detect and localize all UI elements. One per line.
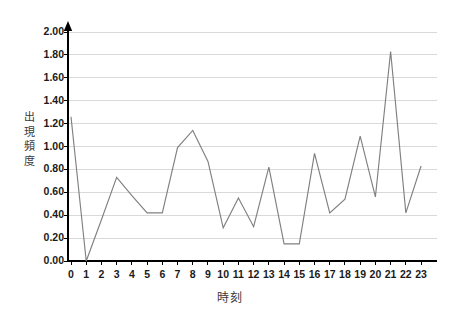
x-axis-tick-label: 16 xyxy=(307,268,323,280)
x-axis-tick-label: 12 xyxy=(246,268,262,280)
x-axis-tick-labels: 01234567891011121314151617181920212223 xyxy=(0,0,460,317)
y-axis-title-char: 現 xyxy=(22,125,37,140)
x-axis-tick-label: 9 xyxy=(200,268,216,280)
x-axis-tick-label: 22 xyxy=(398,268,414,280)
x-axis-tick-label: 7 xyxy=(170,268,186,280)
y-axis-title-char: 度 xyxy=(22,154,37,169)
x-axis-tick-label: 19 xyxy=(352,268,368,280)
x-axis-tick-label: 8 xyxy=(185,268,201,280)
x-axis-tick-label: 15 xyxy=(291,268,307,280)
x-axis-tick-label: 14 xyxy=(276,268,292,280)
x-axis-tick-label: 23 xyxy=(413,268,429,280)
x-axis-tick-label: 1 xyxy=(78,268,94,280)
y-axis-title-char: 出 xyxy=(22,110,37,125)
x-axis-tick-label: 17 xyxy=(322,268,338,280)
y-axis-title-char: 頻 xyxy=(22,139,37,154)
chart-figure: 2.001.801.601.401.201.000.800.600.400.20… xyxy=(0,0,460,317)
x-axis-tick-label: 18 xyxy=(337,268,353,280)
x-axis-tick-label: 10 xyxy=(215,268,231,280)
x-axis-tick-label: 0 xyxy=(63,268,79,280)
x-axis-tick-label: 20 xyxy=(367,268,383,280)
x-axis-tick-label: 4 xyxy=(124,268,140,280)
x-axis-title: 時刻 xyxy=(0,288,460,305)
x-axis-tick-label: 6 xyxy=(154,268,170,280)
x-axis-tick-label: 11 xyxy=(230,268,246,280)
x-axis-tick-label: 13 xyxy=(261,268,277,280)
x-axis-tick-label: 2 xyxy=(93,268,109,280)
x-axis-tick-label: 21 xyxy=(383,268,399,280)
x-axis-tick-label: 3 xyxy=(109,268,125,280)
y-axis-title: 出現頻度 xyxy=(22,110,37,168)
x-axis-tick-label: 5 xyxy=(139,268,155,280)
